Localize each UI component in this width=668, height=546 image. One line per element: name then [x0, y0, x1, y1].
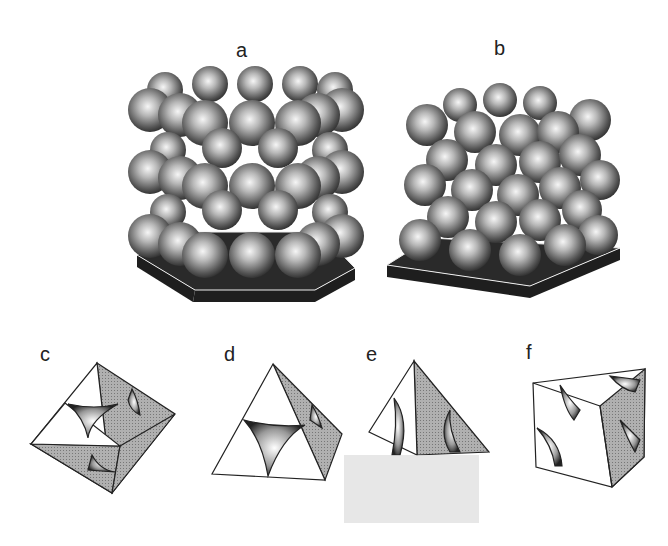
panel-f-cubic-hole [533, 369, 645, 487]
scan-artifact-region [344, 455, 479, 523]
panel-d-tetrahedral-hole [212, 364, 342, 480]
figure-canvas [0, 0, 668, 546]
panel-a-hcp-packing [128, 66, 364, 302]
panel-c-octahedral-hole [31, 363, 175, 493]
panel-e-hole-geometry [344, 361, 489, 523]
panel-b-ccp-packing [387, 83, 620, 298]
